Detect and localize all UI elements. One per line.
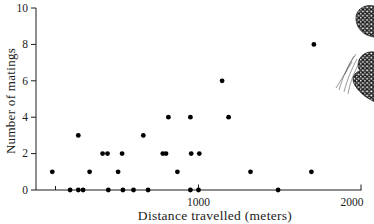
butterfly-illustration: [324, 2, 374, 114]
data-point: [141, 133, 146, 138]
x-tick-label: 2000: [341, 196, 364, 208]
y-tick-label: 8: [22, 38, 28, 50]
scatter-plot-canvas: 024681010002000: [0, 0, 374, 224]
data-point: [188, 188, 193, 193]
butterfly-upper-wing: [356, 5, 374, 37]
data-point: [81, 188, 86, 193]
data-point: [175, 169, 180, 174]
data-point: [131, 188, 136, 193]
butterfly-lower-body: [353, 52, 374, 102]
y-tick-label: 6: [22, 75, 28, 87]
y-axis-label: Number of matings: [3, 48, 19, 154]
data-point: [248, 169, 253, 174]
data-point: [116, 169, 121, 174]
data-point: [87, 169, 92, 174]
data-point: [312, 42, 317, 47]
data-point: [76, 188, 81, 193]
data-point: [309, 169, 314, 174]
data-point: [220, 78, 225, 83]
data-point: [68, 188, 73, 193]
data-point: [189, 151, 194, 156]
data-point: [100, 151, 105, 156]
y-tick-label: 2: [22, 147, 28, 159]
data-point: [146, 188, 151, 193]
data-point: [121, 188, 126, 193]
x-tick-label: 1000: [187, 196, 210, 208]
data-point: [188, 115, 193, 120]
scatter-plot-figure: 024681010002000 Number of matings Distan…: [0, 0, 374, 224]
data-point: [166, 115, 171, 120]
data-point: [276, 188, 281, 193]
data-point: [196, 188, 201, 193]
data-point: [197, 151, 202, 156]
y-tick-label: 0: [22, 184, 28, 196]
data-point: [50, 169, 55, 174]
data-point: [105, 151, 110, 156]
y-tick-label: 10: [17, 2, 29, 14]
data-point: [164, 151, 169, 156]
data-point: [120, 151, 125, 156]
data-point: [226, 115, 231, 120]
data-point: [106, 188, 111, 193]
data-point: [76, 133, 81, 138]
y-tick-label: 4: [22, 111, 28, 123]
x-axis-label: Distance travelled (meters): [138, 208, 292, 224]
